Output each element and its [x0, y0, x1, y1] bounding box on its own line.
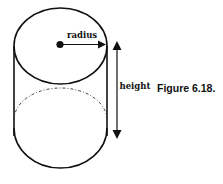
radius-arrowhead-icon	[98, 41, 106, 49]
height-label: height	[120, 81, 151, 91]
figure-caption: Figure 6.18.	[157, 82, 215, 94]
cylinder-bottom-hidden-arc	[14, 88, 107, 120]
height-arrowhead-down-icon	[113, 130, 122, 139]
radius-label: radius	[67, 30, 97, 40]
height-arrowhead-up-icon	[113, 41, 122, 50]
cylinder-bottom-arc	[14, 128, 107, 168]
cylinder-diagram: radius height Figure 6.18.	[0, 0, 223, 184]
figure-canvas: radius height Figure 6.18.	[0, 0, 223, 184]
